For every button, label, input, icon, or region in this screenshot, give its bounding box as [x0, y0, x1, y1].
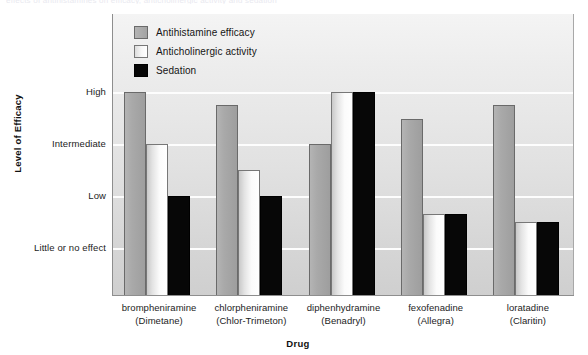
bar-anticholinergic-fexofenadine[interactable] [423, 214, 445, 295]
legend-item-efficacy[interactable]: Antihistamine efficacy [134, 24, 257, 40]
bar-sedation-chlorpheniramine[interactable] [260, 196, 282, 295]
y-axis-line [112, 14, 113, 296]
x-group-label-loratadine: loratadine(Claritin) [474, 302, 582, 327]
y-tick-label: Intermediate [0, 138, 106, 149]
y-tick-label: High [0, 86, 106, 97]
bar-efficacy-loratadine[interactable] [493, 105, 515, 295]
bar-anticholinergic-chlorpheniramine[interactable] [238, 170, 260, 295]
bar-anticholinergic-diphenhydramine[interactable] [331, 92, 353, 295]
x-axis-title-text: Drug [286, 338, 309, 349]
x-group-generic-name: diphenhydramine [307, 302, 381, 313]
bar-efficacy-fexofenadine[interactable] [401, 119, 423, 295]
caption-remnant: effects of antihistamines on efficacy, a… [6, 0, 306, 4]
bar-efficacy-brompheniramine[interactable] [124, 92, 146, 295]
legend-swatch-anticholinergic [134, 45, 148, 58]
y-tick-label: Little or no effect [0, 242, 106, 253]
x-axis-title: Drug [0, 338, 588, 349]
bar-efficacy-diphenhydramine[interactable] [309, 144, 331, 295]
y-tick-label: Low [0, 190, 106, 201]
legend-label-efficacy: Antihistamine efficacy [156, 27, 255, 38]
x-group-generic-name: fexofenadine [408, 302, 463, 313]
legend-label-sedation: Sedation [156, 65, 196, 76]
bar-sedation-diphenhydramine[interactable] [353, 92, 375, 295]
x-group-generic-name: loratadine [507, 302, 549, 313]
chart-legend: Antihistamine efficacyAnticholinergic ac… [134, 24, 257, 81]
legend-item-sedation[interactable]: Sedation [134, 62, 257, 78]
bar-sedation-loratadine[interactable] [537, 222, 559, 295]
legend-item-anticholinergic[interactable]: Anticholinergic activity [134, 43, 257, 59]
bar-sedation-brompheniramine[interactable] [168, 196, 190, 295]
bar-efficacy-chlorpheniramine[interactable] [216, 105, 238, 295]
legend-swatch-sedation [134, 64, 148, 77]
x-group-generic-name: brompheniramine [122, 302, 197, 313]
bar-sedation-fexofenadine[interactable] [445, 214, 467, 295]
legend-label-anticholinergic: Anticholinergic activity [156, 46, 257, 57]
bar-anticholinergic-brompheniramine[interactable] [146, 144, 168, 295]
bar-anticholinergic-loratadine[interactable] [515, 222, 537, 295]
x-group-generic-name: chlorpheniramine [214, 302, 288, 313]
x-axis-line [113, 295, 574, 296]
x-group-brand-name: (Claritin) [474, 315, 582, 328]
legend-swatch-efficacy [134, 26, 148, 39]
